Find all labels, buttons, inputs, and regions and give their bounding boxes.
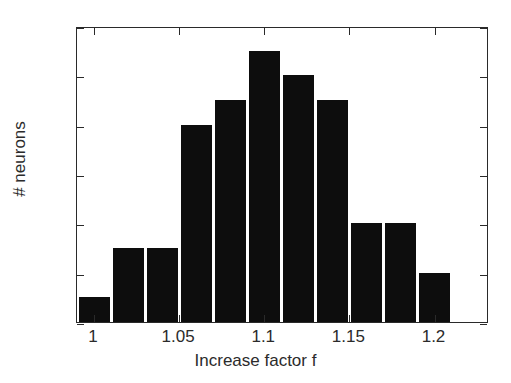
x-axis-tick-mark	[435, 28, 436, 35]
histogram-bar	[351, 223, 382, 322]
histogram-figure: 024681012 11.051.11.151.2 Increase facto…	[0, 0, 511, 383]
y-axis-tick-mark	[480, 28, 487, 29]
y-axis-tick-mark	[77, 275, 84, 276]
x-axis-tick-mark	[179, 315, 180, 322]
histogram-bar	[113, 248, 144, 322]
x-axis-tick-mark	[179, 28, 180, 35]
y-axis-tick-mark	[480, 127, 487, 128]
y-axis-tick-mark	[480, 176, 487, 177]
x-axis-tick-label: 1.2	[404, 328, 464, 345]
y-axis-tick-mark	[480, 275, 487, 276]
histogram-bar	[249, 51, 280, 322]
y-axis-title: # neurons	[11, 59, 29, 259]
y-axis-tick-mark	[77, 324, 84, 325]
x-axis-tick-mark	[94, 315, 95, 322]
x-axis-title: Increase factor f	[0, 352, 511, 370]
histogram-bar	[385, 223, 416, 322]
y-axis-tick-mark	[77, 127, 84, 128]
histogram-bar	[283, 75, 314, 322]
plot-area	[76, 27, 488, 323]
y-axis-tick-mark	[480, 225, 487, 226]
bars-layer	[77, 28, 487, 322]
histogram-bar	[147, 248, 178, 322]
x-axis-tick-mark	[435, 315, 436, 322]
x-axis-tick-mark	[349, 28, 350, 35]
y-axis-tick-mark	[480, 77, 487, 78]
x-axis-tick-label: 1.05	[148, 328, 208, 345]
x-axis-tick-label: 1.15	[318, 328, 378, 345]
histogram-bar	[215, 100, 246, 322]
y-axis-tick-mark	[77, 28, 84, 29]
y-axis-tick-mark	[480, 324, 487, 325]
x-axis-tick-mark	[349, 315, 350, 322]
histogram-bar	[181, 125, 212, 322]
x-axis-tick-label: 1	[63, 328, 123, 345]
x-axis-tick-mark	[94, 28, 95, 35]
y-axis-tick-mark	[77, 225, 84, 226]
y-axis-tick-mark	[77, 176, 84, 177]
histogram-bar	[317, 100, 348, 322]
x-axis-tick-label: 1.1	[233, 328, 293, 345]
y-axis-tick-mark	[77, 77, 84, 78]
x-axis-tick-mark	[264, 315, 265, 322]
x-axis-tick-mark	[264, 28, 265, 35]
